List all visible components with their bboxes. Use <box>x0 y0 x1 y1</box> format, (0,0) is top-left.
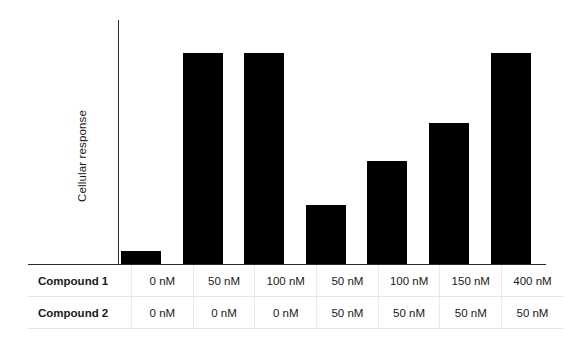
plot-area: Cellular response <box>0 0 573 270</box>
bar <box>244 53 284 264</box>
table-cell: 50 nM <box>193 265 255 297</box>
table-cell: 150 nM <box>440 265 502 297</box>
table-cell: 0 nM <box>193 297 255 329</box>
bar <box>183 53 223 264</box>
table-cell: 0 nM <box>255 297 317 329</box>
table-cell: 400 nM <box>502 265 563 297</box>
table-row: Compound 10 nM50 nM100 nM50 nM100 nM150 … <box>28 265 563 297</box>
table-cell: 50 nM <box>502 297 563 329</box>
table-cell: 50 nM <box>440 297 502 329</box>
bar <box>121 251 161 264</box>
bar-series <box>0 0 573 270</box>
bar <box>429 123 469 264</box>
bar <box>367 161 407 264</box>
table-cell: 0 nM <box>132 265 194 297</box>
table-cell: 0 nM <box>132 297 194 329</box>
table-row-header: Compound 2 <box>28 297 132 329</box>
table-cell: 50 nM <box>378 297 440 329</box>
table-row-header: Compound 1 <box>28 265 132 297</box>
table-cell: 100 nM <box>378 265 440 297</box>
condition-table: Compound 10 nM50 nM100 nM50 nM100 nM150 … <box>28 265 563 329</box>
bar <box>306 205 346 264</box>
table-cell: 50 nM <box>317 265 379 297</box>
bar-chart-figure: Cellular response Compound 10 nM50 nM100… <box>0 0 573 340</box>
table-cell: 100 nM <box>255 265 317 297</box>
table-cell: 50 nM <box>317 297 379 329</box>
table-row: Compound 20 nM0 nM0 nM50 nM50 nM50 nM50 … <box>28 297 563 329</box>
bar <box>491 53 531 264</box>
